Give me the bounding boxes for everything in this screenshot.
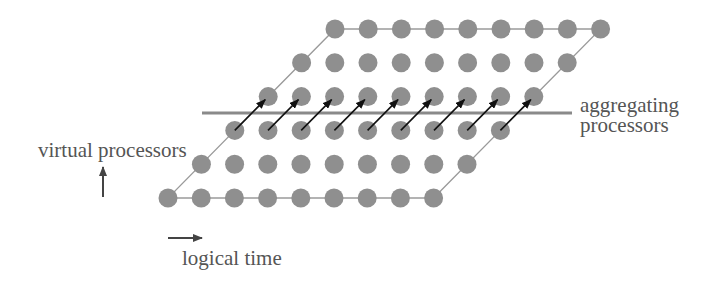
- processor-dot: [325, 53, 344, 72]
- processor-dot: [558, 20, 577, 39]
- processor-dot: [326, 20, 345, 39]
- processor-dot: [525, 53, 544, 72]
- processor-dot: [292, 53, 311, 72]
- processor-dot: [458, 20, 477, 39]
- processor-dot: [525, 20, 544, 39]
- processor-dot: [159, 189, 178, 208]
- processor-dot: [192, 155, 211, 174]
- processor-dot: [591, 20, 610, 39]
- processor-dot: [291, 189, 310, 208]
- processor-dot: [424, 155, 443, 174]
- processor-dot: [491, 53, 510, 72]
- dependency-arrows: [235, 100, 531, 131]
- processor-dot: [392, 53, 411, 72]
- processor-dot: [359, 53, 378, 72]
- processor-dot: [258, 155, 277, 174]
- processor-dot: [458, 53, 477, 72]
- processor-dot: [359, 20, 378, 39]
- processor-dot: [192, 189, 211, 208]
- processor-dot: [391, 189, 410, 208]
- logical-time-label: logical time: [182, 248, 282, 269]
- processor-dot: [558, 53, 577, 72]
- virtual-processors-label: virtual processors: [38, 140, 187, 161]
- processor-dot: [458, 155, 477, 174]
- processor-dot: [424, 189, 443, 208]
- processor-dot: [425, 20, 444, 39]
- processor-dot: [358, 189, 377, 208]
- processor-dot: [225, 155, 244, 174]
- processor-dot: [392, 20, 411, 39]
- processor-dot: [225, 189, 244, 208]
- processor-dot: [358, 155, 377, 174]
- processor-dot: [292, 155, 311, 174]
- processor-dot: [391, 155, 410, 174]
- processor-dot: [425, 53, 444, 72]
- processor-dot: [325, 189, 344, 208]
- processor-dot: [492, 20, 511, 39]
- processors-label: processors: [580, 115, 669, 136]
- processor-dot: [258, 189, 277, 208]
- processor-dot: [325, 155, 344, 174]
